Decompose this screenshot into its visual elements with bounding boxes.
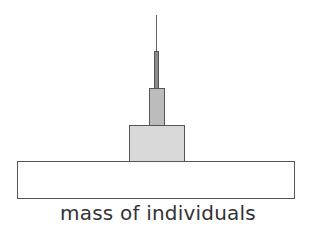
pyramid-caption: mass of individuals xyxy=(0,199,316,227)
pyramid-apex-line xyxy=(156,15,157,51)
pyramid-tier-4 xyxy=(154,51,159,89)
pyramid-tier-3 xyxy=(149,88,165,126)
pyramid-tier-2 xyxy=(129,125,185,162)
pyramid-tier-base xyxy=(17,161,295,199)
